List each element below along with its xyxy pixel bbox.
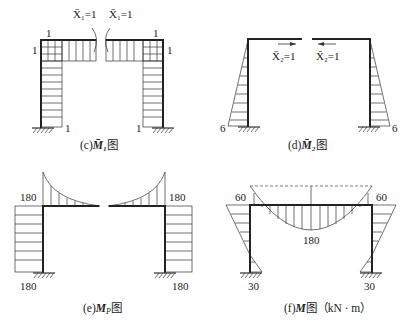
fixed-support-icon xyxy=(238,127,380,132)
caption-d: (d)M̄₂图 xyxy=(288,139,327,152)
force-arrow-icon xyxy=(278,42,336,46)
panel-e-mp-diagram: 180 180 180 180 (e)MP图 xyxy=(15,172,192,316)
load-label-x1-right: X̄₁=1 xyxy=(109,8,132,20)
value-label: 6 xyxy=(220,122,226,134)
value-label: 60 xyxy=(235,191,247,203)
fixed-support-icon xyxy=(33,273,176,278)
value-label: 180 xyxy=(303,234,320,246)
value-label: 180 xyxy=(172,280,189,292)
diagram-canvas: X̄₁=1 X̄₁=1 1 1 1 1 1 1 (c)M̄₁图 xyxy=(0,0,408,327)
value-label: 1 xyxy=(136,122,142,134)
load-label-x1-left: X̄₁=1 xyxy=(73,8,96,20)
frame-left-member xyxy=(43,206,99,273)
panel-f-m-diagram: 60 60 180 30 30 (f)M图（kN · m） xyxy=(226,186,396,315)
load-label-x2-left: X̄₂=1 xyxy=(272,50,295,62)
value-label: 1 xyxy=(32,44,38,56)
value-label: 30 xyxy=(248,280,260,292)
fixed-support-icon xyxy=(240,273,382,278)
value-label: 1 xyxy=(153,27,159,39)
panel-c-m1-diagram: X̄₁=1 X̄₁=1 1 1 1 1 1 1 (c)M̄₁图 xyxy=(32,8,174,152)
value-label: 30 xyxy=(364,280,376,292)
value-label: 180 xyxy=(20,280,37,292)
panel-d-m2-diagram: X̄₂=1 X̄₂=1 6 6 (d)M̄₂图 xyxy=(220,39,398,152)
value-label: 1 xyxy=(167,44,173,56)
frame-left-member xyxy=(41,40,96,128)
caption-f: (f)M图（kN · m） xyxy=(284,302,371,315)
caption-e: (e)MP图 xyxy=(83,302,122,316)
caption-c: (c)M̄₁图 xyxy=(80,139,118,152)
value-label: 180 xyxy=(20,191,37,203)
value-label: 60 xyxy=(376,191,388,203)
frame-right-member xyxy=(106,40,163,128)
value-label: 1 xyxy=(46,27,52,39)
value-label: 1 xyxy=(65,122,71,134)
frame-right-member xyxy=(109,206,165,273)
value-label: 180 xyxy=(169,191,186,203)
fixed-support-icon xyxy=(32,128,174,133)
load-label-x2-right: X̄₂=1 xyxy=(316,50,339,62)
value-label: 6 xyxy=(392,122,398,134)
